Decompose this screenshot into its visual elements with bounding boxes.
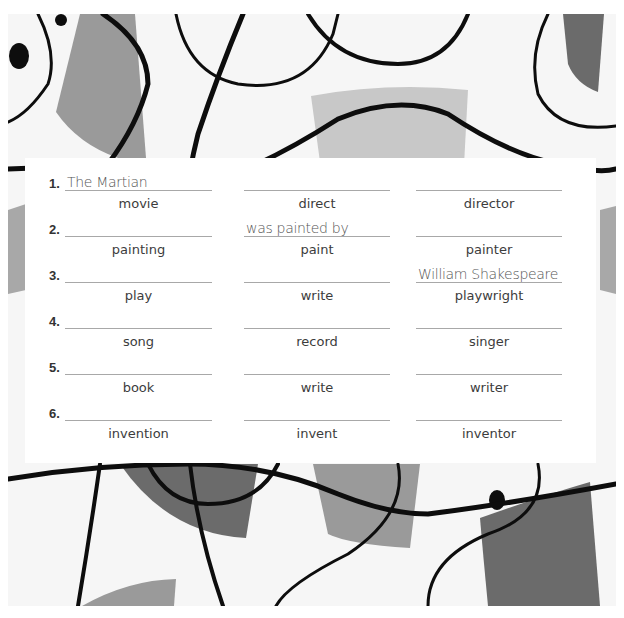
answer-blank-person[interactable]: inventor — [416, 406, 562, 452]
answer-blank-verb[interactable]: direct — [244, 176, 390, 222]
noun-label: play — [65, 288, 212, 303]
answer-blank-person[interactable]: director — [416, 176, 562, 222]
handwritten-answer: The Martian — [67, 174, 147, 190]
noun-label: book — [65, 380, 212, 395]
answer-underline — [416, 374, 562, 375]
answer-underline — [416, 328, 562, 329]
answer-underline — [416, 282, 562, 283]
verb-label: write — [244, 380, 390, 395]
person-label: director — [416, 196, 562, 211]
answer-blank-noun[interactable]: book — [65, 360, 212, 406]
answer-underline — [416, 420, 562, 421]
answer-blank-noun[interactable]: play — [65, 268, 212, 314]
answer-underline — [65, 190, 212, 191]
item-number: 6. — [49, 406, 60, 421]
noun-label: painting — [65, 242, 212, 257]
verb-label: write — [244, 288, 390, 303]
exercise-card: 1. The Martian movie direct director 2. … — [25, 158, 596, 463]
person-label: playwright — [416, 288, 562, 303]
answer-underline — [244, 420, 390, 421]
exercise-row-6: 6. invention invent inventor — [25, 406, 596, 452]
answer-blank-verb[interactable]: write — [244, 268, 390, 314]
answer-blank-verb[interactable]: record — [244, 314, 390, 360]
item-number: 1. — [49, 176, 60, 191]
verb-label: record — [244, 334, 390, 349]
answer-blank-verb[interactable]: invent — [244, 406, 390, 452]
verb-label: direct — [244, 196, 390, 211]
answer-blank-person[interactable]: painter — [416, 222, 562, 268]
item-number: 5. — [49, 360, 60, 375]
answer-underline — [416, 190, 562, 191]
noun-label: invention — [65, 426, 212, 441]
noun-label: movie — [65, 196, 212, 211]
answer-underline — [65, 374, 212, 375]
exercise-row-1: 1. The Martian movie direct director — [25, 176, 596, 222]
handwritten-answer: was painted by — [246, 220, 348, 236]
handwritten-answer: William Shakespeare — [418, 266, 558, 282]
answer-underline — [65, 328, 212, 329]
person-label: singer — [416, 334, 562, 349]
answer-blank-verb[interactable]: write — [244, 360, 390, 406]
answer-blank-person[interactable]: writer — [416, 360, 562, 406]
verb-label: invent — [244, 426, 390, 441]
answer-blank-noun[interactable]: invention — [65, 406, 212, 452]
answer-underline — [244, 236, 390, 237]
answer-blank-noun[interactable]: song — [65, 314, 212, 360]
answer-blank-noun[interactable]: The Martian movie — [65, 176, 212, 222]
person-label: writer — [416, 380, 562, 395]
answer-underline — [244, 374, 390, 375]
exercise-row-2: 2. painting was painted by paint painter — [25, 222, 596, 268]
answer-underline — [65, 282, 212, 283]
person-label: painter — [416, 242, 562, 257]
answer-underline — [244, 282, 390, 283]
answer-underline — [65, 236, 212, 237]
answer-blank-person[interactable]: William Shakespeare playwright — [416, 268, 562, 314]
noun-label: song — [65, 334, 212, 349]
answer-blank-noun[interactable]: painting — [65, 222, 212, 268]
exercise-row-5: 5. book write writer — [25, 360, 596, 406]
answer-blank-verb[interactable]: was painted by paint — [244, 222, 390, 268]
answer-underline — [416, 236, 562, 237]
answer-blank-person[interactable]: singer — [416, 314, 562, 360]
item-number: 4. — [49, 314, 60, 329]
person-label: inventor — [416, 426, 562, 441]
exercise-row-3: 3. play write William Shakespeare playwr… — [25, 268, 596, 314]
item-number: 3. — [49, 268, 60, 283]
answer-underline — [65, 420, 212, 421]
answer-underline — [244, 328, 390, 329]
exercise-row-4: 4. song record singer — [25, 314, 596, 360]
item-number: 2. — [49, 222, 60, 237]
answer-underline — [244, 190, 390, 191]
verb-label: paint — [244, 242, 390, 257]
